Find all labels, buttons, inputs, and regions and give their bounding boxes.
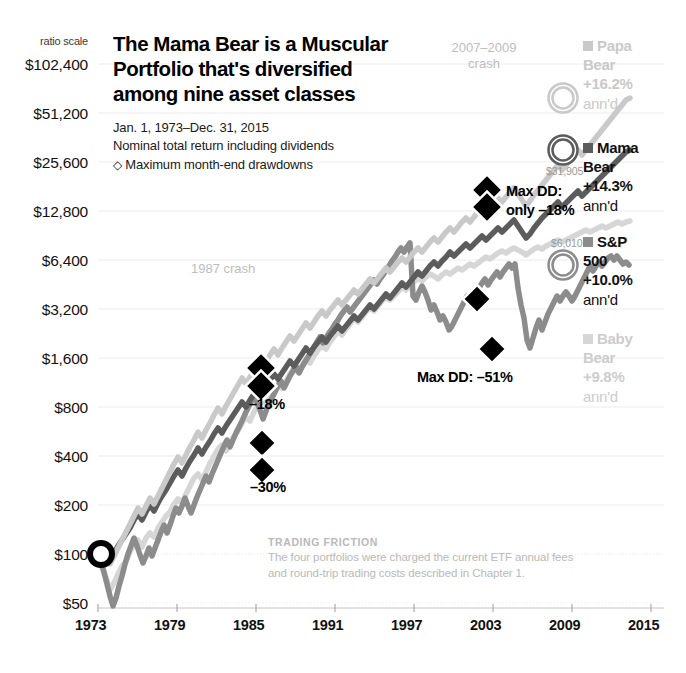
series-line-baby-bear: [98, 221, 630, 590]
x-tick-1997: 1997: [391, 617, 422, 633]
y-tick-6400: $6,400: [0, 252, 88, 270]
y-tick-100: $100: [0, 546, 88, 564]
chart-subtitle: Jan. 1, 1973–Dec. 31, 2015 Nominal total…: [113, 119, 433, 174]
y-tick-1600: $1,600: [0, 350, 88, 368]
legend-name-baby-bear-1: Baby: [597, 330, 632, 347]
y-tick-3200: $3,200: [0, 301, 88, 319]
chart-container: ratio scale $102,400 $51,200 $25,600 $12…: [0, 0, 686, 673]
crash-2008-line-1: 2007–2009: [420, 40, 548, 56]
y-tick-400: $400: [0, 448, 88, 466]
subtitle-return-basis: Nominal total return including dividends: [113, 137, 433, 155]
start-marker-1973: [90, 543, 112, 565]
ratio-scale-label: ratio scale: [0, 35, 88, 47]
x-tick-1991: 1991: [312, 617, 343, 633]
legend-swatch-mama-bear: [583, 143, 593, 153]
diamond-dd30-peak: [248, 429, 276, 457]
mama-dd-line-1: Max DD:: [506, 182, 574, 201]
legend-name-papa-bear-2: Bear: [583, 55, 669, 74]
title-line-3: among nine asset classes: [113, 81, 433, 106]
trading-friction-note: TRADING FRICTION The four portfolios wer…: [268, 536, 598, 581]
footnote-line-1: The four portfolios were charged the cur…: [268, 550, 598, 566]
legend-annualized-papa-bear: ann'd: [583, 94, 669, 113]
mama-dd-line-2: only –18%: [506, 201, 574, 220]
footnote-heading: TRADING FRICTION: [268, 536, 598, 548]
y-tick-50: $50: [0, 595, 88, 613]
y-tick-12800: $12,800: [0, 203, 88, 221]
x-tick-1979: 1979: [154, 617, 185, 633]
legend-swatch-papa-bear: [583, 41, 593, 51]
annotation-1987-crash: 1987 crash: [191, 261, 301, 277]
footnote-line-2: and round-trip trading costs described i…: [268, 566, 598, 582]
annotation-mama-max-dd: Max DD: only –18%: [506, 182, 574, 220]
title-line-2: Portfolio that's diversified: [113, 56, 433, 81]
legend-name-baby-bear-2: Bear: [583, 348, 669, 367]
x-tick-1973: 1973: [75, 617, 106, 633]
page-title: The Mama Bear is a Muscular Portfolio th…: [113, 31, 433, 107]
legend-item-papa-bear[interactable]: Papa Bear +16.2% ann'd: [583, 36, 669, 113]
drawdown-key-label: Maximum month-end drawdowns: [125, 157, 312, 172]
legend-annualized-mama-bear: ann'd: [583, 196, 669, 215]
y-tick-200: $200: [0, 497, 88, 515]
crash-2008-line-2: crash: [420, 56, 548, 72]
annotation-drawdown-30: –30%: [250, 479, 286, 495]
legend-swatch-baby-bear: [583, 334, 593, 344]
legend-annualized-sp500: ann'd: [583, 290, 669, 309]
y-tick-25600: $25,600: [0, 154, 88, 172]
x-axis: [98, 604, 664, 612]
x-tick-1985: 1985: [233, 617, 264, 633]
legend-return-sp500: +10.0%: [583, 270, 669, 289]
chart-title-block: The Mama Bear is a Muscular Portfolio th…: [113, 31, 433, 174]
diamond-sp500-trough: [478, 335, 506, 363]
y-tick-51200: $51,200: [0, 105, 88, 123]
title-line-1: The Mama Bear is a Muscular: [113, 31, 433, 56]
legend-annualized-baby-bear: ann'd: [583, 387, 669, 406]
end-value-label-sp500: $6,010: [551, 237, 583, 249]
legend-name-mama-bear-1: Mama: [597, 139, 638, 156]
footnote-body: The four portfolios were charged the cur…: [268, 550, 598, 581]
subtitle-date-range: Jan. 1, 1973–Dec. 31, 2015: [113, 119, 433, 137]
legend-name-sp500-2: 500: [583, 251, 669, 270]
legend-name-mama-bear-2: Bear: [583, 157, 669, 176]
legend-swatch-sp500: [583, 237, 593, 247]
y-tick-102400: $102,400: [0, 56, 88, 74]
end-value-label-mama-bear: $31,905: [546, 165, 583, 177]
x-tick-2009: 2009: [549, 617, 580, 633]
annotation-2007-2009-crash: 2007–2009 crash: [420, 40, 548, 72]
annotation-drawdown-18: –18%: [249, 396, 285, 412]
legend-item-mama-bear[interactable]: Mama Bear +14.3% ann'd: [583, 138, 669, 215]
legend-name-sp500-1: S&P: [597, 233, 627, 250]
legend-return-mama-bear: +14.3%: [583, 176, 669, 195]
legend-return-baby-bear: +9.8%: [583, 367, 669, 386]
x-tick-2003: 2003: [470, 617, 501, 633]
diamond-icon: ◇: [113, 157, 122, 174]
legend-return-papa-bear: +16.2%: [583, 74, 669, 93]
annotation-sp500-max-dd: Max DD: –51%: [417, 369, 513, 385]
legend-name-papa-bear-1: Papa: [597, 37, 632, 54]
y-tick-800: $800: [0, 399, 88, 417]
legend-item-sp500[interactable]: S&P 500 +10.0% ann'd: [583, 232, 669, 309]
legend-item-baby-bear[interactable]: Baby Bear +9.8% ann'd: [583, 329, 669, 406]
subtitle-drawdown-key: ◇ Maximum month-end drawdowns: [113, 156, 433, 174]
x-tick-2015: 2015: [628, 617, 659, 633]
